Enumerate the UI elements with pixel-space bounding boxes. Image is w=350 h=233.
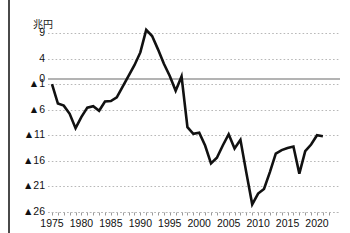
y-axis-tick-label: ▲21 [23, 180, 45, 191]
line-chart-plot [0, 0, 350, 233]
y-axis-tick-label: 9 [39, 27, 45, 38]
y-axis-tick-label: 4 [39, 53, 45, 64]
y-axis-tick-label: ▲16 [23, 155, 45, 166]
chart-screenshot: 兆円 940▲1▲6▲11▲16▲21▲26 19751980198519901… [0, 0, 350, 233]
data-series-line [52, 30, 323, 204]
x-axis-tick-label: 2020 [297, 217, 337, 229]
x-axis-tick-marks [48, 213, 340, 216]
gridlines-group [48, 34, 340, 213]
y-axis-tick-label: ▲26 [23, 206, 45, 217]
y-axis-tick-label: ▲1 [29, 78, 45, 89]
y-axis-tick-label: ▲11 [24, 129, 45, 140]
y-axis-tick-label: ▲6 [29, 104, 45, 115]
